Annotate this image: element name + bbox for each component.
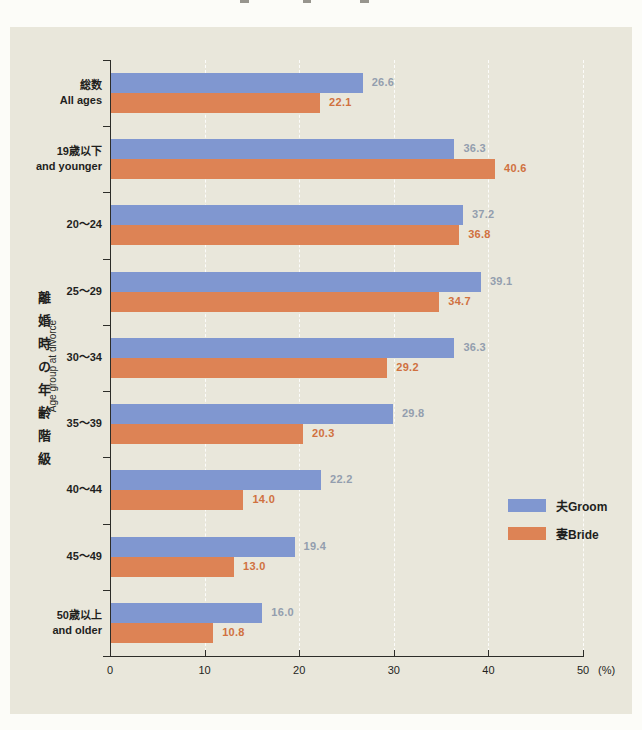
bar-bride-2 [111,225,459,245]
value-label-groom-5: 29.8 [402,407,425,419]
cropped-title-fragment [303,0,311,3]
category-label-en: and older [10,623,102,638]
value-label-bride-3: 34.7 [448,295,471,307]
category-label-4: 30〜34 [10,350,102,365]
value-label-groom-4: 36.3 [463,341,486,353]
y-axis-tick-2 [103,192,110,193]
category-label-8: 50歳以上and older [10,608,102,638]
bar-groom-5 [111,404,393,424]
y-axis-tick-9 [103,656,110,657]
value-label-bride-7: 13.0 [243,560,266,572]
value-label-groom-7: 19.4 [304,540,327,552]
category-label-jp: 35〜39 [10,416,102,431]
value-label-groom-3: 39.1 [490,275,513,287]
bar-groom-4 [111,338,454,358]
category-label-jp: 総数 [10,78,102,93]
bride-color-swatch [508,527,546,540]
bar-groom-2 [111,205,463,225]
chart-panel: 離婚時の年齢階級 Age group at divorce 0102030405… [10,27,632,714]
bar-groom-3 [111,272,481,292]
value-label-bride-8: 10.8 [222,626,245,638]
y-axis-tick-7 [103,524,110,525]
value-label-groom-8: 16.0 [271,606,294,618]
legend-item-bride: 妻Bride [508,525,607,542]
value-label-bride-6: 14.0 [252,493,275,505]
gridline-40 [488,60,489,656]
category-label-0: 総数All ages [10,78,102,108]
category-label-en: and younger [10,159,102,174]
value-label-bride-4: 29.2 [396,361,419,373]
x-axis-tick-10 [205,650,206,656]
bar-bride-7 [111,557,234,577]
category-label-jp: 25〜29 [10,284,102,299]
value-label-groom-2: 37.2 [472,208,495,220]
category-label-en: All ages [10,93,102,108]
bar-bride-6 [111,490,243,510]
x-axis-line [110,656,584,657]
x-axis-tick-label-40: 40 [470,664,506,676]
bar-groom-8 [111,603,262,623]
x-axis-tick-label-0: 0 [92,664,128,676]
category-label-5: 35〜39 [10,416,102,431]
legend-label-bride: 妻Bride [556,525,599,542]
gridline-50 [583,60,584,656]
category-label-jp: 30〜34 [10,350,102,365]
x-axis-tick-30 [394,650,395,656]
value-label-bride-5: 20.3 [312,427,335,439]
x-axis-tick-label-50: 50 [565,664,601,676]
cropped-title-fragment [360,0,369,3]
bar-groom-1 [111,139,454,159]
category-label-2: 20〜24 [10,217,102,232]
category-label-1: 19歳以下and younger [10,144,102,174]
value-label-bride-1: 40.6 [504,162,527,174]
bar-bride-0 [111,93,320,113]
value-label-groom-6: 22.2 [330,473,353,485]
bar-bride-4 [111,358,387,378]
legend: 夫Groom 妻Bride [508,497,607,553]
category-label-3: 25〜29 [10,284,102,299]
bar-bride-3 [111,292,439,312]
value-label-bride-2: 36.8 [468,228,491,240]
category-label-7: 45〜49 [10,549,102,564]
bar-bride-1 [111,159,495,179]
x-axis-unit-label: (%) [598,664,615,676]
bar-bride-5 [111,424,303,444]
value-label-groom-1: 36.3 [463,142,486,154]
y-axis-tick-6 [103,457,110,458]
legend-item-groom: 夫Groom [508,497,607,514]
y-axis-tick-8 [103,590,110,591]
category-label-jp: 50歳以上 [10,608,102,623]
bar-groom-0 [111,73,363,93]
plot-area: 01020304050(%)26.622.1総数All ages36.340.6… [110,60,583,656]
y-axis-title-english: Age group at divorce [47,296,61,436]
category-label-jp: 20〜24 [10,217,102,232]
category-label-jp: 19歳以下 [10,144,102,159]
legend-label-groom: 夫Groom [556,497,607,514]
category-label-6: 40〜44 [10,482,102,497]
x-axis-tick-label-30: 30 [376,664,412,676]
value-label-bride-0: 22.1 [329,96,352,108]
bar-groom-6 [111,470,321,490]
category-label-jp: 40〜44 [10,482,102,497]
y-axis-tick-3 [103,259,110,260]
x-axis-tick-20 [299,650,300,656]
x-axis-tick-label-20: 20 [281,664,317,676]
cropped-title-fragment [240,0,249,3]
y-axis-tick-4 [103,325,110,326]
category-label-jp: 45〜49 [10,549,102,564]
y-axis-tick-1 [103,126,110,127]
bar-bride-8 [111,623,213,643]
y-axis-tick-5 [103,391,110,392]
bar-groom-7 [111,537,295,557]
x-axis-tick-50 [583,650,584,656]
value-label-groom-0: 26.6 [372,76,395,88]
x-axis-tick-label-10: 10 [187,664,223,676]
x-axis-tick-40 [488,650,489,656]
y-axis-tick-0 [103,60,110,61]
groom-color-swatch [508,499,546,512]
